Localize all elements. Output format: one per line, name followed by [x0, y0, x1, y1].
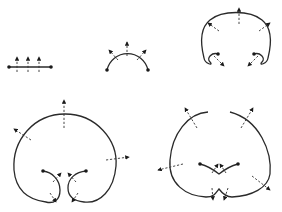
panel-heart-loop: [14, 100, 129, 203]
panel-arc: [105, 42, 150, 72]
diagram-canvas: [0, 0, 282, 212]
panel-curled-arc: [202, 8, 271, 66]
panel-segment: [7, 57, 53, 72]
panel-heart-cusp: [158, 108, 270, 200]
